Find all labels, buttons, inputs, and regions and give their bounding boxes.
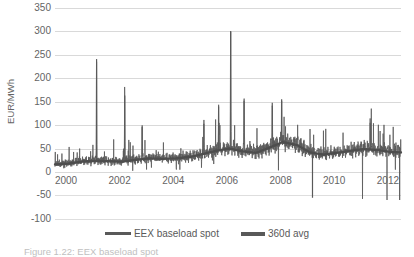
plot-area bbox=[55, 8, 401, 172]
legend-swatch-icon bbox=[241, 232, 265, 236]
gridline bbox=[55, 219, 401, 220]
y-axis-tick-label: -50 bbox=[7, 190, 51, 200]
y-axis-tick-label: 350 bbox=[7, 3, 51, 13]
y-axis-tick-label: 100 bbox=[7, 120, 51, 130]
x-axis-tick-label: 2010 bbox=[323, 176, 345, 186]
x-axis-tick-label: 2002 bbox=[108, 176, 130, 186]
y-axis-tick-label: 150 bbox=[7, 97, 51, 107]
y-axis-tick-labels-negative: -50-100 bbox=[0, 172, 51, 222]
legend-item-eex-baseload-spot: EEX baseload spot bbox=[105, 228, 219, 239]
gridline bbox=[55, 172, 401, 173]
legend-label: EEX baseload spot bbox=[134, 228, 219, 239]
series-layer bbox=[55, 8, 401, 172]
x-axis-tick-label: 2000 bbox=[55, 176, 77, 186]
legend-label: 360d avg bbox=[268, 228, 309, 239]
gridline bbox=[55, 195, 401, 196]
figure-caption: Figure 1.22: EEX baseload spot bbox=[24, 246, 414, 257]
legend-swatch-icon bbox=[105, 232, 131, 235]
x-axis-tick-label: 2012 bbox=[377, 176, 399, 186]
y-axis-tick-label: 250 bbox=[7, 50, 51, 60]
x-axis-tick-labels: 2000200220042006200820102012 bbox=[55, 176, 401, 190]
y-axis-tick-label: 200 bbox=[7, 73, 51, 83]
x-axis-tick-label: 2006 bbox=[216, 176, 238, 186]
y-axis-tick-label: 300 bbox=[7, 26, 51, 36]
y-axis-tick-label: 50 bbox=[7, 144, 51, 154]
legend-item-360d-avg: 360d avg bbox=[241, 228, 309, 239]
y-axis-tick-labels: 350300250200150100500 bbox=[0, 8, 51, 172]
y-axis-tick-label: -100 bbox=[7, 214, 51, 224]
chart-legend: EEX baseload spot 360d avg bbox=[0, 228, 414, 239]
x-axis-tick-label: 2004 bbox=[162, 176, 184, 186]
x-axis-tick-label: 2008 bbox=[269, 176, 291, 186]
